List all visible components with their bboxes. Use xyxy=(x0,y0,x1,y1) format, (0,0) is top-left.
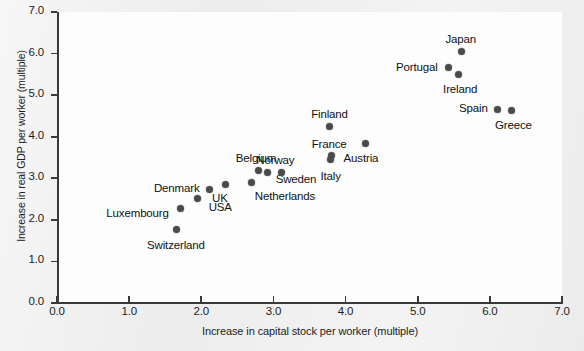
x-tick-label: 4.0 xyxy=(326,305,366,317)
data-point-label: Spain xyxy=(459,102,488,114)
data-point-label: Austria xyxy=(344,152,379,164)
data-point-marker xyxy=(222,181,229,188)
x-tick-label: 0.0 xyxy=(37,305,77,317)
data-point-marker xyxy=(328,152,335,159)
y-axis-title: Increase in real GDP per worker (multipl… xyxy=(15,31,27,261)
y-axis-line xyxy=(57,12,59,304)
x-tick-mark xyxy=(561,296,563,302)
data-point-marker xyxy=(445,64,452,71)
data-point-marker xyxy=(326,123,333,130)
data-point-marker xyxy=(278,169,285,176)
y-tick-mark xyxy=(51,136,57,138)
x-axis-line xyxy=(57,302,563,304)
x-tick-label: 6.0 xyxy=(470,305,510,317)
y-tick-mark xyxy=(51,94,57,96)
y-tick-label: 7.0 xyxy=(0,4,44,16)
data-point-label: Switzerland xyxy=(147,239,205,251)
y-tick-mark xyxy=(51,177,57,179)
y-tick-mark xyxy=(51,53,57,55)
y-tick-mark xyxy=(51,302,57,304)
x-tick-label: 7.0 xyxy=(542,305,582,317)
x-tick-label: 3.0 xyxy=(253,305,293,317)
scatter-chart-figure: 0.01.02.03.04.05.06.07.0 0.01.02.03.04.0… xyxy=(0,0,584,351)
x-tick-mark xyxy=(489,296,491,302)
data-point-marker xyxy=(362,140,369,147)
data-point-label: France xyxy=(312,138,347,150)
data-point-label: Italy xyxy=(320,170,340,182)
data-point-label: Portugal xyxy=(396,61,438,73)
data-point-label: UK xyxy=(212,192,228,204)
data-point-marker xyxy=(508,107,515,114)
y-tick-mark xyxy=(51,11,57,13)
data-point-marker xyxy=(255,167,262,174)
data-point-label: Finland xyxy=(311,108,348,120)
data-point-label: Ireland xyxy=(443,83,477,95)
data-point-marker xyxy=(177,205,184,212)
data-point-marker xyxy=(494,106,501,113)
x-tick-mark xyxy=(128,296,130,302)
x-tick-mark xyxy=(345,296,347,302)
data-point-marker xyxy=(458,48,465,55)
x-tick-label: 1.0 xyxy=(109,305,149,317)
data-point-marker xyxy=(173,226,180,233)
x-tick-label: 2.0 xyxy=(181,305,221,317)
data-point-label: Norway xyxy=(256,154,294,166)
x-tick-label: 5.0 xyxy=(398,305,438,317)
x-tick-mark xyxy=(417,296,419,302)
x-axis-title: Increase in capital stock per worker (mu… xyxy=(57,325,563,337)
data-point-label: Luxembourg xyxy=(106,207,168,219)
data-point-label: Japan xyxy=(446,33,477,45)
plot-area xyxy=(57,12,562,303)
x-tick-mark xyxy=(56,296,58,302)
data-point-label: Greece xyxy=(495,119,532,131)
data-point-label: Netherlands xyxy=(255,190,315,202)
x-tick-mark xyxy=(273,296,275,302)
x-tick-mark xyxy=(200,296,202,302)
y-tick-mark xyxy=(51,219,57,221)
data-point-label: Denmark xyxy=(154,182,200,194)
data-point-marker xyxy=(455,71,462,78)
y-tick-mark xyxy=(51,261,57,263)
